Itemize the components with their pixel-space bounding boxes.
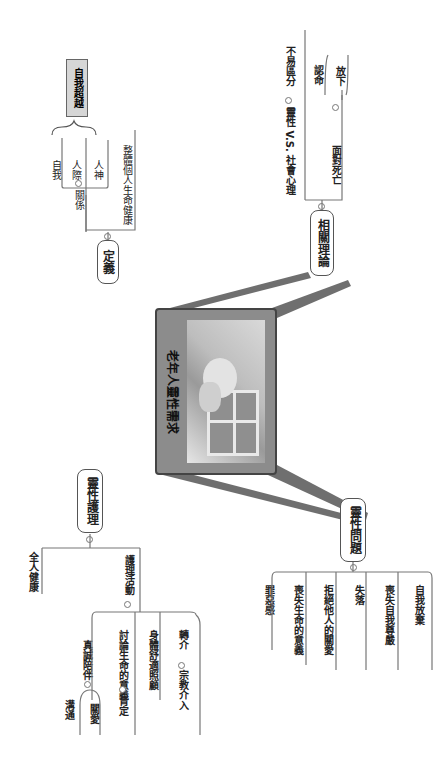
label-interpersonal[interactable]: 人際: [69, 160, 81, 180]
label-holistic-health[interactable]: 整體個人生命健康: [120, 145, 132, 225]
problem-item[interactable]: 喪失生命的意義: [291, 585, 303, 655]
label-spirit-vs-social[interactable]: 靈性 V.S. 社會心理: [283, 107, 295, 195]
label-human-god[interactable]: 人神: [91, 160, 103, 180]
label-relation[interactable]: 關係: [72, 190, 84, 210]
node-theories[interactable]: 相關理論: [310, 210, 334, 276]
problem-item[interactable]: 喪失自我尊嚴: [382, 585, 394, 645]
collapse-toggle-religion[interactable]: [178, 662, 185, 669]
collapse-toggle-theories[interactable]: [318, 203, 325, 210]
node-definition[interactable]: 定義: [97, 240, 119, 284]
problem-item[interactable]: 罪惡感: [262, 585, 274, 615]
collapse-toggle-care[interactable]: [86, 536, 93, 543]
problem-item[interactable]: 拒絕他人的關愛: [321, 585, 333, 655]
label-caring[interactable]: 關愛: [87, 704, 99, 724]
label-whole-person-health[interactable]: 全人健康: [26, 552, 38, 592]
label-resignation[interactable]: 認命: [311, 65, 323, 85]
collapse-toggle-definition[interactable]: [104, 233, 111, 240]
collapse-toggle-spirit-vs-social[interactable]: [285, 97, 292, 104]
node-care[interactable]: 靈性護理: [77, 469, 103, 533]
label-religion[interactable]: 宗教介入: [176, 670, 188, 710]
collapse-toggle-affirm[interactable]: [119, 686, 126, 693]
label-nursing-activities[interactable]: 護理活動: [122, 555, 134, 595]
node-self-transcendence[interactable]: 自我超越: [66, 59, 88, 117]
branch-lines: [0, 0, 448, 780]
label-let-go[interactable]: 放下: [333, 66, 345, 86]
collapse-toggle-problems[interactable]: [350, 564, 357, 571]
collapse-toggle-facing-death[interactable]: [332, 104, 339, 111]
label-communication[interactable]: 溝通: [62, 700, 74, 720]
problem-item[interactable]: 自我放棄: [412, 585, 424, 625]
label-facing-death[interactable]: 面對死亡: [329, 145, 341, 185]
collapse-toggle-relation[interactable]: [75, 180, 82, 187]
label-self[interactable]: 自我: [49, 160, 61, 180]
collapse-toggle-activities[interactable]: [124, 601, 131, 608]
problem-item[interactable]: 失落: [352, 585, 364, 605]
label-genuine-company[interactable]: 真誠陪伴: [80, 640, 92, 680]
collapse-toggle-company[interactable]: [84, 681, 91, 688]
label-body-comfort[interactable]: 身體舒適照顧: [146, 630, 158, 690]
label-referral[interactable]: 轉介: [176, 630, 188, 650]
node-problems[interactable]: 靈性問題: [340, 498, 366, 562]
label-hard-to-distinguish[interactable]: 不易區分: [283, 46, 295, 86]
